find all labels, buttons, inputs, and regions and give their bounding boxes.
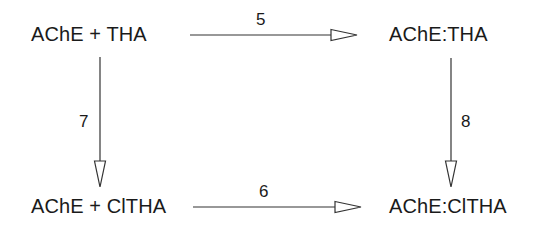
arrow-left	[95, 57, 106, 187]
open-arrowhead-icon	[335, 202, 361, 213]
edge-label-left: 7	[79, 112, 88, 132]
node-ache-clitha: AChE + ClTHA	[31, 194, 166, 218]
node-ache-tha-complex: AChE:THA	[389, 22, 488, 46]
edge-label-right: 8	[461, 112, 470, 132]
node-ache-tha: AChE + THA	[31, 22, 147, 46]
arrow-right	[446, 58, 457, 187]
open-arrowhead-icon	[331, 30, 357, 41]
edge-label-top: 5	[256, 10, 265, 30]
edge-label-bottom: 6	[259, 182, 268, 202]
open-arrowhead-icon	[446, 161, 457, 187]
open-arrowhead-icon	[95, 161, 106, 187]
arrow-top	[190, 30, 357, 41]
arrow-bottom	[193, 202, 361, 213]
node-ache-clitha-complex: AChE:ClTHA	[389, 194, 507, 218]
